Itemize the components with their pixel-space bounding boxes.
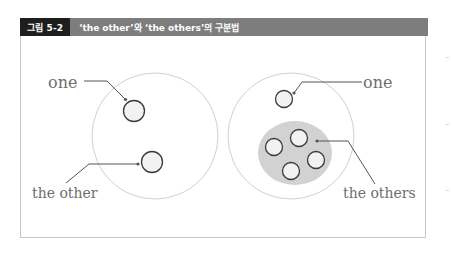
leader-dot: [292, 91, 295, 94]
right-set: one the others: [228, 73, 416, 201]
left-set-circle: [92, 73, 218, 199]
leader-dot: [315, 139, 318, 142]
label-one-left: one: [48, 73, 77, 92]
other-vs-others-diagram: one the other one the others: [0, 0, 451, 255]
label-the-others: the others: [343, 185, 416, 201]
others-circle-2: [291, 130, 308, 147]
left-one-leader-line: [84, 81, 125, 99]
left-the-other-circle: [142, 152, 163, 173]
leader-dot: [136, 162, 139, 165]
others-circle-4: [283, 163, 300, 180]
left-the-other-leader-line: [66, 164, 138, 183]
leader-dot: [124, 98, 127, 101]
others-circle-3: [308, 152, 325, 169]
left-set: one the other: [32, 73, 218, 201]
right-one-circle: [276, 91, 293, 108]
others-circle-1: [266, 139, 283, 156]
label-the-other: the other: [32, 185, 98, 201]
right-one-leader-line: [294, 82, 362, 93]
label-one-right: one: [363, 73, 392, 92]
left-one-circle: [124, 101, 145, 122]
